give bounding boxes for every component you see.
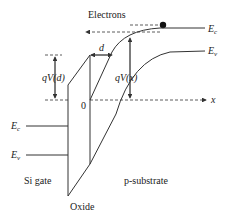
gate-ev-label: Ev	[10, 149, 21, 162]
ec-band-curve	[90, 28, 205, 100]
oxide-label: Oxide	[70, 201, 95, 212]
si-gate-label: Si gate	[24, 175, 52, 186]
x-axis-label: x	[210, 94, 216, 105]
origin-label: 0	[81, 100, 86, 111]
oxide-region	[68, 55, 90, 196]
ev-right-label: Ev	[207, 45, 218, 58]
ec-right-label: Ec	[207, 23, 218, 36]
electrons-label: Electrons	[88, 9, 126, 20]
qvx-label: qV(x)	[115, 72, 138, 84]
electron-dot	[160, 22, 166, 28]
ev-band-curve	[90, 51, 205, 164]
d-label: d	[99, 42, 105, 53]
gate-ec-label: Ec	[10, 120, 21, 133]
qvd-label: qV(d)	[42, 72, 65, 84]
p-substrate-label: p-substrate	[124, 175, 168, 186]
band-diagram: Electrons Ec Ev d qV(d) x 0 qV(x) Ec Ev …	[0, 0, 228, 222]
